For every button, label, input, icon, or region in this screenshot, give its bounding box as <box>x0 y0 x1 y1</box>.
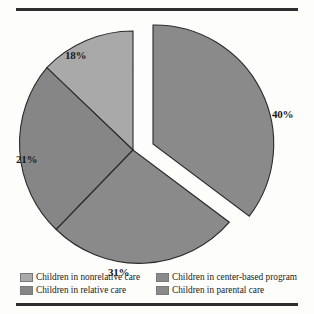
slice-label-parental-care: 40% <box>272 108 293 120</box>
legend-label: Children in nonrelative care <box>36 271 140 283</box>
slice-label-nonrelative-care: 18% <box>65 49 86 61</box>
legend-swatch-icon <box>156 273 169 282</box>
legend-swatch-icon <box>20 286 33 295</box>
legend-label: Children in relative care <box>36 284 126 296</box>
pie-chart-svg <box>0 16 314 266</box>
bottom-rule <box>16 303 298 306</box>
legend-swatch-icon <box>20 273 33 282</box>
top-rule <box>16 8 298 11</box>
slice-label-relative-care: 21% <box>16 153 37 165</box>
legend-label: Children in parental care <box>172 284 264 296</box>
legend-item-parental-care[interactable]: Children in parental care <box>156 284 300 296</box>
legend-item-center-based-program[interactable]: Children in center-based program <box>156 271 300 283</box>
legend-item-nonrelative-care[interactable]: Children in nonrelative care <box>20 271 156 283</box>
legend-swatch-icon <box>156 286 169 295</box>
legend-item-relative-care[interactable]: Children in relative care <box>20 284 156 296</box>
pie-chart: 40% 31% 21% 18% <box>0 16 314 266</box>
legend-label: Children in center-based program <box>172 271 297 283</box>
figure-page: 40% 31% 21% 18% Children in nonrelative … <box>0 0 314 314</box>
chart-legend: Children in nonrelative care Children in… <box>20 271 300 296</box>
